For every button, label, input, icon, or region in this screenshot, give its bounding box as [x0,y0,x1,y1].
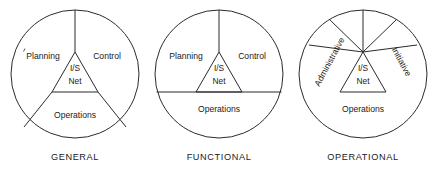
operational-label-operations: Operations [342,104,384,114]
general-core-label-line2: Net [68,76,82,86]
general-label-control: Control [93,51,121,61]
functional-caption: FUNCTIONAL [187,152,252,162]
functional-core-label-line1: I/S [214,63,225,73]
general-caption: GENERAL [51,152,99,162]
diagram-operational: Administrative Initiative Operations I/S… [299,10,427,162]
operational-core-label-line2: Net [356,76,370,86]
functional-label-planning: Planning [169,51,203,61]
operational-core-label-line1: I/S [358,63,369,73]
operational-divider-upper-right [363,19,397,52]
functional-core-label-line2: Net [212,76,226,86]
operational-label-administrative: Administrative [312,35,346,88]
operational-caption: OPERATIONAL [327,152,398,162]
general-divider-right-diagonal [98,92,126,127]
functional-label-control: Control [238,51,266,61]
operational-divider-right [363,45,417,52]
diagram-functional: Planning Control Operations I/S Net FUNC… [155,10,283,162]
general-label-operations: Operations [54,110,96,120]
functional-label-operations: Operations [198,104,240,114]
general-core-label-line1: I/S [70,63,81,73]
diagram-general: Planning Control Operations I/S Net GENE… [11,10,139,162]
operational-label-initiative: Initiative [390,45,414,78]
general-tick-mark [24,49,26,52]
diagram-figure: Planning Control Operations I/S Net GENE… [0,0,437,173]
general-divider-left-diagonal [24,92,52,127]
three-circle-organization-diagram: Planning Control Operations I/S Net GENE… [0,0,437,173]
general-label-planning: Planning [26,51,60,61]
